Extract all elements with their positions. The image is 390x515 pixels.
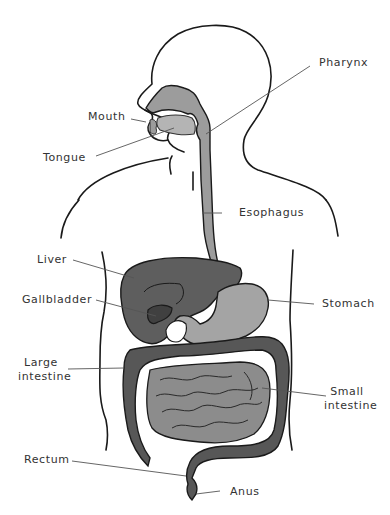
label-large-intestine-line1: Large bbox=[18, 356, 64, 370]
label-small-intestine-line2: intestine bbox=[324, 399, 370, 413]
label-large-intestine-line2: intestine bbox=[18, 370, 64, 384]
label-rectum: Rectum bbox=[24, 453, 70, 467]
label-pharynx: Pharynx bbox=[319, 56, 368, 70]
label-stomach: Stomach bbox=[322, 297, 375, 311]
label-small-intestine-line1: Small bbox=[324, 385, 370, 399]
digestive-system-diagram: Pharynx Mouth Tongue Esophagus Liver Gal… bbox=[0, 0, 390, 515]
label-liver: Liver bbox=[37, 253, 67, 267]
label-small-intestine: Small intestine bbox=[324, 385, 370, 413]
label-esophagus: Esophagus bbox=[239, 206, 304, 220]
label-anus: Anus bbox=[230, 485, 260, 499]
label-gallbladder: Gallbladder bbox=[22, 293, 92, 307]
label-tongue: Tongue bbox=[43, 151, 86, 165]
label-large-intestine: Large intestine bbox=[18, 356, 64, 384]
label-mouth: Mouth bbox=[88, 110, 125, 124]
small-intestine bbox=[147, 362, 270, 443]
